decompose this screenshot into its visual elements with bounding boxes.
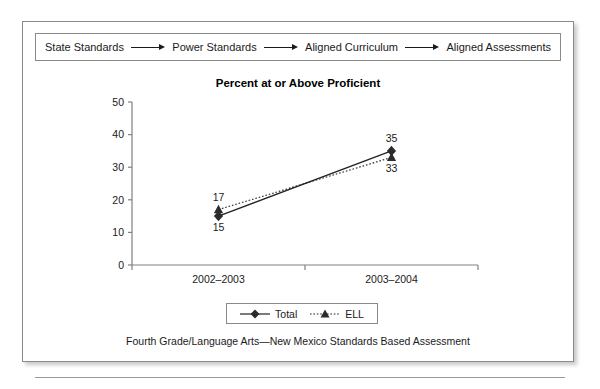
legend-label-total: Total (275, 308, 297, 320)
y-tick-label: 50 (112, 96, 124, 108)
x-tick-label: 2002–2003 (192, 273, 245, 285)
y-tick-label: 30 (112, 161, 124, 173)
y-tick-label: 0 (118, 259, 124, 271)
data-point-marker (214, 205, 223, 213)
data-point-label: 15 (213, 221, 225, 233)
bottom-divider (35, 377, 565, 378)
legend-label-ell: ELL (345, 308, 364, 320)
chart-legend: Total ELL (226, 303, 378, 324)
data-point-marker (387, 153, 396, 161)
y-tick-label: 40 (112, 128, 124, 140)
data-point-label: 33 (386, 162, 398, 174)
legend-entry-total: Total (240, 308, 297, 320)
series-line-total (219, 151, 392, 216)
figure-frame: State Standards Power Standards Aligned … (22, 21, 574, 362)
legend-entry-ell: ELL (310, 308, 364, 320)
y-tick-label: 20 (112, 194, 124, 206)
legend-marker-triangle-icon (310, 308, 340, 320)
figure-caption: Fourth Grade/Language Arts—New Mexico St… (23, 335, 573, 347)
y-tick-label: 10 (112, 226, 124, 238)
legend-marker-diamond-icon (240, 308, 270, 320)
x-tick-label: 2003–2004 (365, 273, 418, 285)
data-point-label: 17 (213, 191, 225, 203)
data-point-label: 35 (386, 132, 398, 144)
